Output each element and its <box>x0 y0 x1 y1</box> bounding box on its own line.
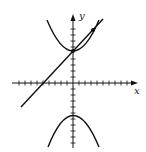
secant-line <box>21 19 103 107</box>
y-axis-arrow-icon <box>71 14 76 21</box>
coordinate-plot: x y <box>0 0 146 152</box>
y-axis: y <box>71 10 86 148</box>
x-axis-label: x <box>134 85 140 96</box>
x-axis: x <box>12 81 140 97</box>
upper-vertex-point <box>71 49 75 53</box>
y-axis-label: y <box>78 10 85 21</box>
second-intersection-point <box>91 28 95 32</box>
